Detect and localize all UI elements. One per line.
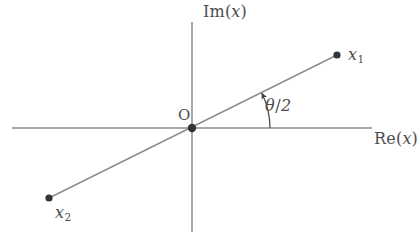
angle-label-theta-over-two: θ/2 [265,98,291,114]
angle-label-symbol: θ [265,96,275,115]
point-dot-x2 [45,194,52,201]
point-label-x2-subscript: 2 [65,211,72,223]
point-dot-x1 [333,51,340,58]
point-label-x1: x1 [348,47,364,63]
origin-label: O [178,108,190,123]
real-axis-label: Re(x) [374,131,418,147]
point-label-x1-subscript: 1 [358,53,365,65]
origin-point-dot [188,124,196,132]
point-label-x2-variable: x [55,203,64,222]
point-label-x1-variable: x [348,45,357,64]
imaginary-axis-label-variable: x [231,2,240,21]
imaginary-axis-label: Im(x) [203,4,247,20]
complex-plane-figure: Im(x) Re(x) O x1 x2 θ/2 [0,0,419,240]
imaginary-axis-label-close-paren: ) [241,2,247,21]
real-axis-label-variable: x [402,129,411,148]
angle-label-denominator: 2 [281,96,291,115]
real-axis-label-close-paren: ) [412,129,418,148]
imaginary-axis-label-prefix: Im [203,2,225,21]
real-axis-label-prefix: Re [374,129,396,148]
point-label-x2: x2 [55,205,71,221]
